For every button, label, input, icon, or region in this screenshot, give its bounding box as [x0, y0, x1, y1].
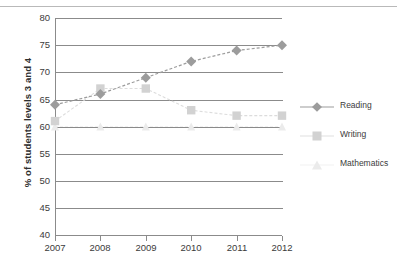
data-point-marker — [233, 123, 241, 131]
data-point-marker — [232, 111, 240, 119]
legend-item-writing[interactable]: Writing — [300, 128, 395, 157]
chart-container: % of students levels 3 and 4 80 75 70 65… — [0, 0, 397, 255]
data-point-marker — [277, 40, 287, 50]
series-line — [55, 89, 282, 122]
series-mathematics — [51, 123, 286, 131]
legend: Reading Writing Mathematics — [300, 99, 395, 186]
data-point-marker — [278, 111, 286, 119]
writing-marker-icon — [300, 130, 334, 142]
legend-item-mathematics[interactable]: Mathematics — [300, 157, 395, 186]
legend-label: Mathematics — [340, 158, 388, 168]
data-point-marker — [50, 100, 60, 110]
legend-label: Writing — [340, 129, 366, 139]
legend-item-reading[interactable]: Reading — [300, 99, 395, 128]
mathematics-marker-icon — [300, 159, 334, 171]
series-line — [55, 45, 282, 105]
reading-marker-icon — [300, 101, 334, 113]
data-point-marker — [142, 84, 150, 92]
data-point-marker — [232, 46, 242, 56]
data-point-marker — [51, 117, 59, 125]
data-point-marker — [187, 123, 195, 131]
data-point-marker — [278, 123, 286, 131]
data-point-marker — [141, 73, 151, 83]
data-point-marker — [186, 56, 196, 66]
legend-label: Reading — [340, 100, 372, 110]
data-point-marker — [187, 106, 195, 114]
series-writing — [51, 84, 286, 125]
